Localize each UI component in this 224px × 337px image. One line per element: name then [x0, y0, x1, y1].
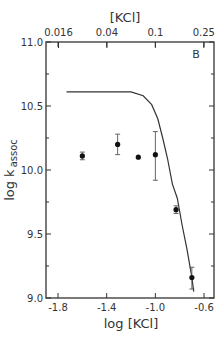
top-axis-ticks: 0.0160.040.10.25	[44, 27, 215, 48]
data-point	[189, 275, 194, 280]
panel-label: B	[192, 48, 200, 61]
top-tick-label: 0.016	[44, 27, 73, 38]
data-point	[173, 207, 178, 212]
data-point	[153, 152, 158, 157]
y-tick-label: 11.0	[21, 37, 43, 48]
top-tick-label: 0.04	[96, 27, 118, 38]
y-axis-title: log kassoc	[2, 139, 19, 201]
data-points	[80, 132, 195, 289]
x-tick-label: -1.4	[97, 302, 117, 313]
data-point	[136, 155, 141, 160]
chart: [KCl] 0.0160.040.10.25 B -1.8-1.4-1.0-0.…	[0, 0, 224, 337]
fit-curve	[67, 92, 194, 292]
top-axis-title: [KCl]	[110, 10, 141, 25]
top-tick-label: 0.1	[147, 27, 163, 38]
x-tick-label: -1.8	[48, 302, 68, 313]
y-tick-label: 10.0	[21, 165, 43, 176]
x-axis-ticks: -1.8-1.4-1.0-0.6	[48, 42, 214, 313]
x-tick-label: -0.6	[194, 302, 214, 313]
x-axis-title: log [KCl]	[104, 316, 159, 331]
y-tick-label: 9.0	[27, 293, 43, 304]
top-tick-label: 0.25	[193, 27, 215, 38]
svg-text:log kassoc: log kassoc	[2, 139, 19, 201]
y-tick-label: 10.5	[21, 101, 43, 112]
y-tick-label: 9.5	[27, 229, 43, 240]
data-point	[80, 153, 85, 158]
y-axis-ticks: 9.09.510.010.511.0	[21, 37, 214, 304]
x-tick-label: -1.0	[146, 302, 166, 313]
data-point	[115, 142, 120, 147]
